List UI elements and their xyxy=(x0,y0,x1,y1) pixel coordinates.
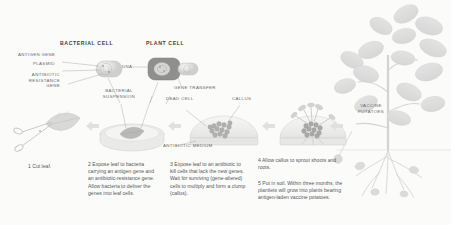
step-3-text: 3 Expose leaf to an antibiotic to kill c… xyxy=(170,161,248,197)
label-antibiotic-resistance-gene: ANTIBIOTICRESISTANCEGENE xyxy=(20,72,60,89)
label-bacterial-suspension: BACTERIALSUSPENSION xyxy=(99,88,139,99)
step-4-text: 4 Allow callus to sprout shoots and root… xyxy=(258,157,338,171)
label-dead-cell: DEAD CELL xyxy=(166,96,194,102)
stage-bacterial-suspension-illustration xyxy=(100,96,164,151)
step-2-text: 2 Expose leaf to bacteria carrying an an… xyxy=(88,161,160,197)
arrow-3 xyxy=(262,121,275,131)
arrow-2 xyxy=(168,121,181,131)
header-bacterial-cell: BACTERIAL CELL xyxy=(60,40,113,46)
arrow-1 xyxy=(86,121,99,131)
diagram-canvas: BACTERIAL CELL PLANT CELL ANTIGEN GENE P… xyxy=(0,0,451,225)
label-plasmid: PLASMID xyxy=(33,61,55,67)
label-dna: DNA xyxy=(122,64,132,70)
stage-callus-illustration xyxy=(176,105,258,146)
header-plant-cell: PLANT CELL xyxy=(146,40,184,46)
step-1-text: 1 Cut leaf. xyxy=(28,163,90,170)
label-callus: CALLUS xyxy=(232,96,251,102)
potato-plant-illustration xyxy=(332,1,451,198)
label-antigen-gene: ANTIGEN GENE xyxy=(18,52,55,58)
label-vaccine-potatoes: VACCINEPOTATOES xyxy=(350,103,392,114)
stage-sprouting-illustration xyxy=(280,103,346,145)
step-5-text: 5 Put in soil. Within three months, the … xyxy=(258,180,346,202)
stage-cut-leaf-illustration xyxy=(13,111,80,152)
label-antibiotic-medium: ANTIBIOTIC MEDIUM xyxy=(163,143,213,149)
label-gene-transfer: GENE TRANSFER xyxy=(174,85,216,91)
